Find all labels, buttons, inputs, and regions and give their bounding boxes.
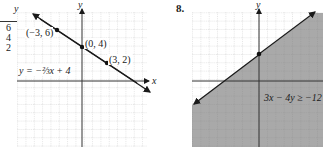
graph-2: 8. y 3x − 4y ≥ −12 [176,0,323,147]
graph1-point [80,45,84,49]
graph1-point [55,28,59,32]
graph2-y-axis-label: y [255,0,261,10]
textbook-figure: y 6 4 2 y x [0,0,323,147]
graph1-point-label: (−3, 6) [26,27,53,39]
graph1-y-axis-label: y [77,0,83,10]
graph2-boundary-point [257,52,262,57]
graphs-canvas: y x (−3, 6) (0, 4) (3, 2) y = −⅔x + 4 8. [0,0,323,147]
graph1-point-label: (0, 4) [85,38,107,50]
problem-number: 8. [176,2,185,14]
graph1-equation-label: y = −⅔x + 4 [18,65,71,76]
graph-1: y x (−3, 6) (0, 4) (3, 2) y = −⅔x + 4 [17,0,157,147]
graph1-point-label: (3, 2) [109,54,131,66]
graph2-inequality-label: 3x − 4y ≥ −12 [263,92,322,103]
graph1-x-axis-label: x [151,75,157,86]
